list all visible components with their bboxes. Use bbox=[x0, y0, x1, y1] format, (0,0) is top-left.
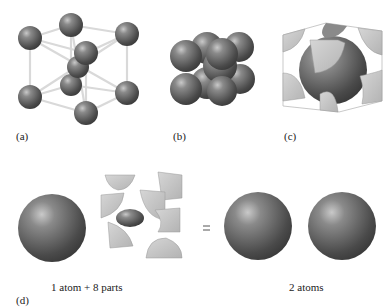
panel-b-packed-spheres bbox=[170, 32, 255, 106]
panel-c-unit-cell bbox=[283, 23, 382, 112]
central-atom bbox=[18, 194, 86, 262]
panel-a-atoms bbox=[18, 13, 139, 125]
panel-d-equation bbox=[18, 172, 376, 262]
left-caption: 1 atom + 8 parts bbox=[51, 281, 123, 293]
panel-b-label: (b) bbox=[173, 130, 186, 142]
right-caption: 2 atoms bbox=[289, 281, 324, 293]
panel-c-label: (c) bbox=[284, 130, 296, 142]
panel-a-label: (a) bbox=[16, 130, 28, 142]
eight-corner-parts bbox=[101, 172, 182, 258]
result-atom-1 bbox=[224, 192, 292, 260]
result-atom-2 bbox=[308, 192, 376, 260]
bcc-diagram bbox=[0, 0, 389, 307]
panel-d-label: (d) bbox=[16, 294, 29, 306]
